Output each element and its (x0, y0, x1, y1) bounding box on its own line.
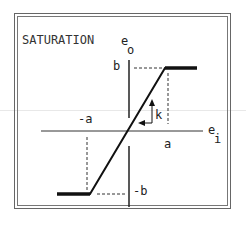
slope-arrowhead-up (149, 99, 155, 106)
label-slope-k: k (155, 109, 162, 121)
slope-arrowhead-left (138, 120, 145, 126)
diagram-title: SATURATION (22, 34, 94, 46)
label-b: b (113, 60, 120, 72)
output-axis-subscript: o (127, 44, 134, 56)
input-axis-subscript: i (214, 133, 221, 145)
label-neg-a: -a (78, 113, 92, 125)
label-neg-b: -b (133, 185, 147, 197)
label-a: a (164, 138, 171, 150)
